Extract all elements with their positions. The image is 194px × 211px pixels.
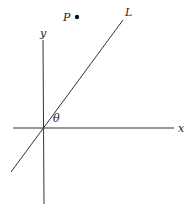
- point-p: [75, 15, 79, 19]
- x-axis-label: x: [178, 122, 185, 135]
- line-l-label: L: [124, 6, 132, 19]
- point-p-label: P: [62, 11, 71, 24]
- angle-theta-label: θ: [53, 112, 60, 125]
- coordinate-diagram: P L y x θ: [0, 0, 194, 211]
- y-axis: [43, 40, 44, 204]
- line-l: [11, 20, 123, 172]
- y-axis-label: y: [39, 27, 47, 40]
